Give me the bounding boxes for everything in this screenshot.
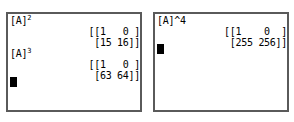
entry-line-a-cubed: [A]3 bbox=[8, 48, 142, 59]
result-line-a-cubed-row1: [[1 0 ] bbox=[8, 59, 142, 70]
entry-text-a-fourth: [A]^4 bbox=[157, 15, 186, 26]
right-screen-cursor bbox=[157, 44, 164, 54]
entry-line-a-fourth: [A]^4 bbox=[155, 15, 289, 26]
left-screen-body: [A]2 [[1 0 ] [15 16]] [A]3 [[1 0 ] [63 6… bbox=[8, 14, 140, 110]
result-line-a-cubed-row2: [63 64]] bbox=[8, 70, 142, 81]
left-calculator-screen[interactable]: [A]2 [[1 0 ] [15 16]] [A]3 [[1 0 ] [63 6… bbox=[6, 12, 142, 112]
right-calculator-screen[interactable]: [A]^4 [[1 0 ] [255 256]] bbox=[153, 12, 289, 112]
exponent-2: 2 bbox=[27, 14, 31, 22]
result-line-a-squared-row1: [[1 0 ] bbox=[8, 26, 142, 37]
result-line-a-fourth-row1: [[1 0 ] bbox=[155, 26, 289, 37]
left-screen-cursor bbox=[10, 77, 17, 87]
right-screen-body: [A]^4 [[1 0 ] [255 256]] bbox=[155, 14, 287, 110]
exponent-3: 3 bbox=[27, 47, 31, 55]
result-line-a-fourth-row2: [255 256]] bbox=[155, 37, 289, 48]
entry-text-a-cubed: [A] bbox=[10, 48, 27, 59]
entry-text-a-squared: [A] bbox=[10, 15, 27, 26]
calculator-screens-container: [A]2 [[1 0 ] [15 16]] [A]3 [[1 0 ] [63 6… bbox=[0, 0, 294, 122]
entry-line-a-squared: [A]2 bbox=[8, 15, 142, 26]
